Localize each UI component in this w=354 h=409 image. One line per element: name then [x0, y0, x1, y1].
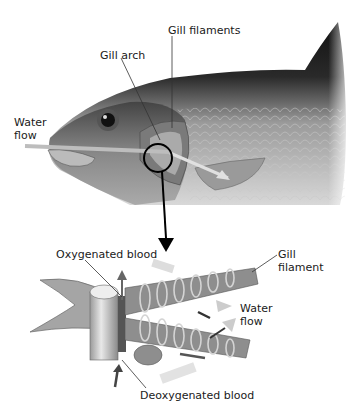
gill-arch-crosssection: [30, 279, 126, 360]
label-gill-filaments: Gill filaments: [168, 24, 240, 37]
gill-filaments: [125, 268, 258, 365]
label-water-flow-bottom: Water flow: [240, 302, 273, 328]
label-oxygenated-blood: Oxygenated blood: [56, 248, 157, 261]
label-water-flow-top: Water flow: [14, 116, 47, 142]
label-gill-filament: Gill filament: [278, 248, 324, 274]
arrow-down-icon: [158, 238, 174, 252]
water-flow-arrow-icon: [216, 300, 232, 312]
label-gill-arch: Gill arch: [100, 49, 145, 62]
fish-body: [48, 20, 354, 210]
gill-diagram-illustration: [0, 0, 354, 409]
oxygenated-blood-arrow-icon: [117, 270, 127, 280]
label-deoxygenated-blood: Deoxygenated blood: [140, 389, 254, 402]
deoxygenated-blood-arrow-icon: [113, 364, 123, 372]
